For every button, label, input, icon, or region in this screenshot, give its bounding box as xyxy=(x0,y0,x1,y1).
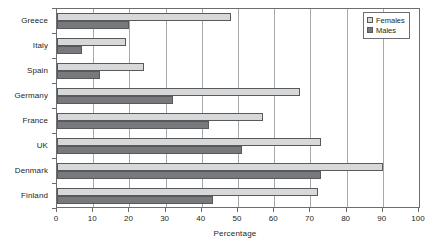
y-axis-label-greece: Greece xyxy=(21,16,48,25)
bar-uk-males xyxy=(57,146,242,154)
y-axis-label-spain: Spain xyxy=(27,66,48,75)
x-axis-label-50: 50 xyxy=(225,214,249,223)
bar-greece-males xyxy=(57,21,129,29)
x-tick-90 xyxy=(382,208,383,212)
bar-row xyxy=(57,159,419,184)
y-tick xyxy=(52,33,56,34)
bar-france-males xyxy=(57,121,209,129)
x-axis-label-90: 90 xyxy=(370,214,394,223)
bar-row xyxy=(57,184,419,209)
x-axis-label-40: 40 xyxy=(189,214,213,223)
x-axis-label-80: 80 xyxy=(334,214,358,223)
x-tick-30 xyxy=(165,208,166,212)
bar-spain-males xyxy=(57,71,100,79)
x-axis-title: Percentage xyxy=(0,229,442,238)
legend-item-males: Males xyxy=(367,25,405,35)
y-tick xyxy=(52,108,56,109)
bar-denmark-females xyxy=(57,163,383,171)
males-swatch-icon xyxy=(367,27,373,33)
x-tick-20 xyxy=(128,208,129,212)
x-tick-70 xyxy=(309,208,310,212)
y-axis-label-finland: Finland xyxy=(21,191,48,200)
y-axis-label-denmark: Denmark xyxy=(15,166,48,175)
bar-germany-males xyxy=(57,96,173,104)
y-tick xyxy=(52,58,56,59)
legend-label-males: Males xyxy=(376,26,396,35)
bar-denmark-males xyxy=(57,171,321,179)
bar-italy-females xyxy=(57,38,126,46)
bar-germany-females xyxy=(57,88,300,96)
x-axis-label-30: 30 xyxy=(153,214,177,223)
y-axis-label-germany: Germany xyxy=(14,91,48,100)
bar-greece-females xyxy=(57,13,231,21)
x-axis-label-70: 70 xyxy=(297,214,321,223)
legend-label-females: Females xyxy=(376,16,405,25)
bar-row xyxy=(57,134,419,159)
y-axis-label-uk: UK xyxy=(37,141,48,150)
x-tick-40 xyxy=(201,208,202,212)
x-axis-title-label: Percentage xyxy=(214,229,257,238)
bar-chart: GreeceItalySpainGermanyFranceUKDenmarkFi… xyxy=(0,0,442,248)
y-tick xyxy=(52,83,56,84)
bar-spain-females xyxy=(57,63,144,71)
bar-row xyxy=(57,59,419,84)
y-tick xyxy=(52,133,56,134)
y-tick xyxy=(52,183,56,184)
x-axis-label-60: 60 xyxy=(261,214,285,223)
bar-row xyxy=(57,84,419,109)
x-axis-label-20: 20 xyxy=(116,214,140,223)
y-axis-label-france: France xyxy=(23,116,49,125)
x-axis-label-100: 100 xyxy=(406,214,430,223)
bar-finland-females xyxy=(57,188,318,196)
bar-finland-males xyxy=(57,196,213,204)
x-tick-0 xyxy=(56,208,57,212)
legend-item-females: Females xyxy=(367,15,405,25)
bar-row xyxy=(57,109,419,134)
x-tick-80 xyxy=(346,208,347,212)
x-tick-100 xyxy=(418,208,419,212)
bar-uk-females xyxy=(57,138,321,146)
legend: Females Males xyxy=(363,12,410,39)
x-tick-10 xyxy=(92,208,93,212)
females-swatch-icon xyxy=(367,17,373,23)
x-tick-60 xyxy=(273,208,274,212)
y-axis-label-italy: Italy xyxy=(33,41,48,50)
x-axis-label-10: 10 xyxy=(80,214,104,223)
x-tick-50 xyxy=(237,208,238,212)
y-tick xyxy=(52,158,56,159)
x-axis-label-0: 0 xyxy=(44,214,68,223)
bar-italy-males xyxy=(57,46,82,54)
bar-france-females xyxy=(57,113,263,121)
y-tick xyxy=(52,8,56,9)
